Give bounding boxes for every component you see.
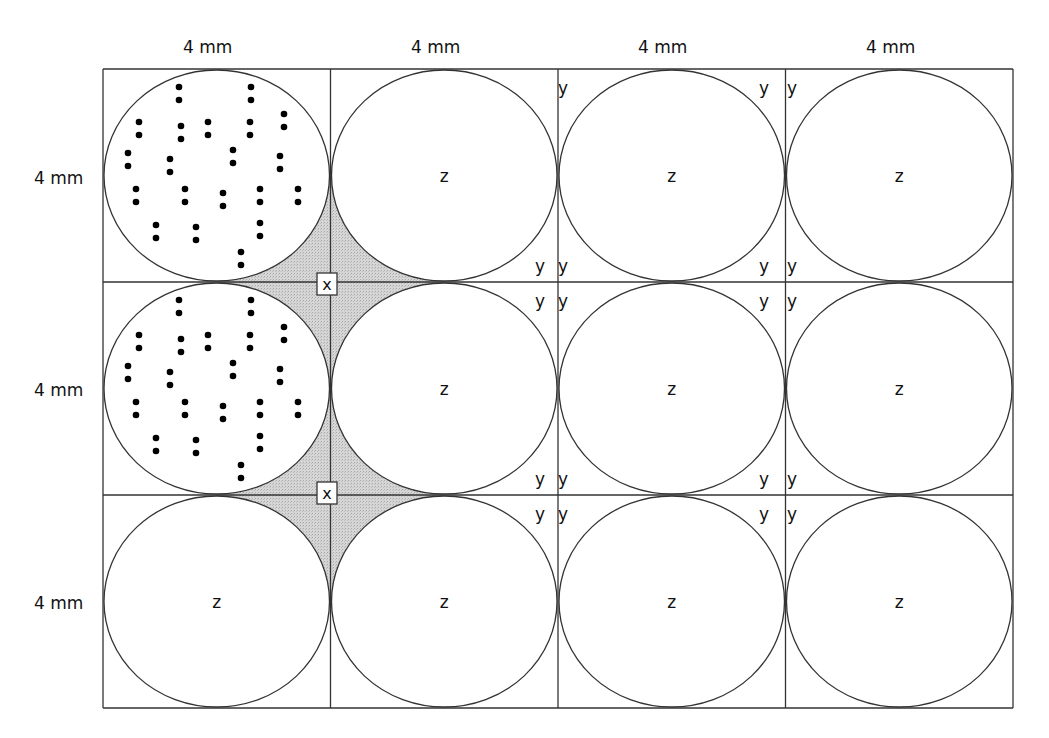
y-label: y [558, 504, 568, 524]
y-label: y [759, 291, 769, 311]
dot [257, 186, 264, 193]
dot [277, 166, 284, 173]
dot [193, 237, 200, 244]
y-label: y [787, 504, 797, 524]
dot [295, 399, 302, 406]
dot [238, 249, 245, 256]
y-label: y [535, 256, 545, 276]
circle [104, 70, 330, 281]
z-label: z [440, 166, 449, 186]
dot [178, 349, 185, 356]
dot [133, 412, 140, 419]
dot [247, 345, 254, 352]
dot [167, 156, 174, 163]
y-label: y [759, 256, 769, 276]
dot [136, 345, 143, 352]
dot [295, 186, 302, 193]
dot [193, 437, 200, 444]
dot [247, 132, 254, 139]
y-label: y [787, 256, 797, 276]
dot [257, 446, 264, 453]
dot [277, 379, 284, 386]
dot [176, 310, 183, 317]
y-label: y [787, 291, 797, 311]
dot [125, 163, 132, 170]
dot [182, 186, 189, 193]
dot [220, 190, 227, 197]
dot [205, 332, 212, 339]
dot [133, 399, 140, 406]
dot [247, 119, 254, 126]
z-label: z [440, 592, 449, 612]
dot [178, 136, 185, 143]
dot [220, 403, 227, 410]
dot [205, 345, 212, 352]
y-label: y [535, 291, 545, 311]
dot [295, 199, 302, 206]
dot [247, 332, 254, 339]
dot [133, 199, 140, 206]
z-label: z [667, 379, 676, 399]
dot [182, 412, 189, 419]
z-label: z [667, 592, 676, 612]
dot [238, 462, 245, 469]
dot [176, 297, 183, 304]
dot [281, 324, 288, 331]
dot [257, 412, 264, 419]
z-label: z [212, 592, 221, 612]
dot [176, 84, 183, 91]
dot [136, 119, 143, 126]
dot [281, 124, 288, 131]
dot [281, 111, 288, 118]
dot [182, 399, 189, 406]
y-label: y [535, 469, 545, 489]
y-label: y [558, 256, 568, 276]
dot [238, 262, 245, 269]
dot [257, 433, 264, 440]
dot [193, 450, 200, 457]
dot [230, 373, 237, 380]
dot [133, 186, 140, 193]
y-label: y [558, 78, 568, 98]
dot [182, 199, 189, 206]
y-label: y [558, 291, 568, 311]
dot [167, 369, 174, 376]
dot [230, 160, 237, 167]
y-label: y [759, 78, 769, 98]
dot [248, 84, 255, 91]
dot [193, 224, 200, 231]
dot [277, 153, 284, 160]
dot [257, 199, 264, 206]
z-label: z [895, 592, 904, 612]
dot [277, 366, 284, 373]
x-label: x [322, 275, 331, 294]
y-label: y [787, 78, 797, 98]
dot [248, 297, 255, 304]
dot [153, 235, 160, 242]
dot [257, 233, 264, 240]
dot [178, 336, 185, 343]
y-label: y [759, 469, 769, 489]
dot [238, 475, 245, 482]
dot [205, 119, 212, 126]
z-label: z [895, 166, 904, 186]
dot [220, 203, 227, 210]
dot [230, 147, 237, 154]
dot [125, 363, 132, 370]
dot [248, 97, 255, 104]
dot [257, 399, 264, 406]
dot [153, 448, 160, 455]
dot [230, 360, 237, 367]
dot [167, 382, 174, 389]
z-label: z [895, 379, 904, 399]
dot [178, 123, 185, 130]
y-label: y [759, 504, 769, 524]
z-label: z [667, 166, 676, 186]
dot [220, 416, 227, 423]
y-label: y [787, 469, 797, 489]
y-label: y [535, 504, 545, 524]
dot [257, 220, 264, 227]
x-label: x [322, 484, 331, 503]
diagram-canvas: 4 mm 4 mm 4 mm 4 mm 4 mm 4 mm 4 mm zzzzz… [0, 0, 1049, 738]
dot [136, 332, 143, 339]
